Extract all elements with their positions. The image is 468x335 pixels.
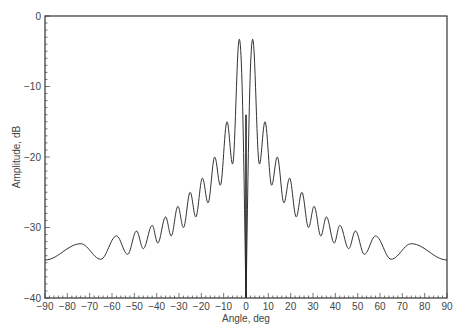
y-axis-label: Amplitude, dB	[11, 126, 22, 189]
x-tick-label: 30	[307, 301, 319, 312]
antenna-pattern-chart: 0−10−20−30−40 −90−80−70−60−50−40−30−20−1…	[0, 0, 468, 335]
x-tick-label: 60	[374, 301, 386, 312]
x-tick-label: 90	[441, 301, 453, 312]
x-tick-label: 50	[352, 301, 364, 312]
x-axis-ticks: −90−80−70−60−50−40−30−20−100102030405060…	[37, 293, 453, 312]
x-tick-label: −60	[104, 301, 121, 312]
x-tick-label: −50	[126, 301, 143, 312]
x-tick-label: 40	[330, 301, 342, 312]
y-tick-label: −20	[24, 152, 41, 163]
y-tick-label: 0	[35, 11, 41, 22]
x-tick-label: −30	[171, 301, 188, 312]
x-tick-label: 20	[285, 301, 297, 312]
x-tick-label: 80	[419, 301, 431, 312]
x-tick-label: −70	[81, 301, 98, 312]
x-tick-label: 0	[243, 301, 249, 312]
x-tick-label: −40	[148, 301, 165, 312]
x-tick-label: −90	[37, 301, 54, 312]
x-tick-label: −20	[193, 301, 210, 312]
x-axis-label: Angle, deg	[222, 313, 270, 324]
x-tick-label: −10	[215, 301, 232, 312]
y-tick-label: −30	[24, 222, 41, 233]
x-tick-label: −80	[59, 301, 76, 312]
x-tick-label: 70	[397, 301, 409, 312]
y-tick-label: −10	[24, 81, 41, 92]
x-tick-label: 10	[263, 301, 275, 312]
